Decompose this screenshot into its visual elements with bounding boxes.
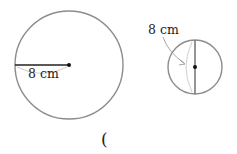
radius-label: 8 cm [28, 66, 59, 81]
circle-radius-figure: 8 cm [15, 11, 123, 119]
center-dot-large [67, 63, 71, 67]
diameter-brace-arc [186, 42, 192, 92]
leader-arrowhead [179, 60, 185, 65]
circles-diagram: 8 cm 8 cm ( [0, 0, 237, 154]
answer-paren: ( [101, 129, 108, 149]
circle-diameter-figure: 8 cm [148, 22, 222, 94]
center-dot-small [193, 65, 197, 69]
diameter-label: 8 cm [148, 22, 179, 37]
